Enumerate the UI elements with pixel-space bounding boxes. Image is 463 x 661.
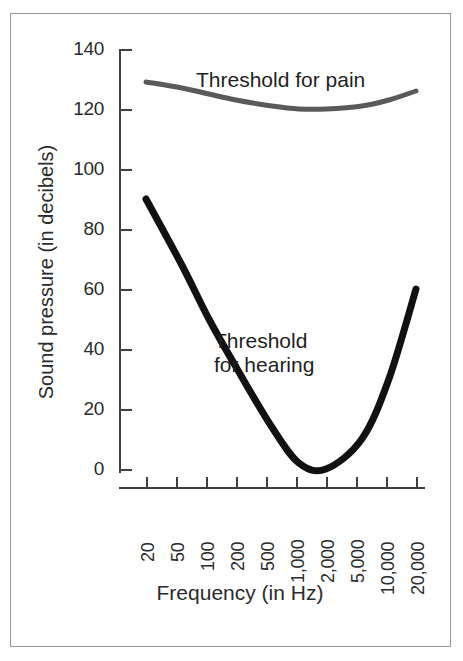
figure-container: 140 120 100 80 60 40 20 0 20 50 100 200 … <box>0 0 463 661</box>
y-tick-label-0: 0 <box>44 459 104 478</box>
x-tick-mark <box>266 477 268 487</box>
x-tick-mark <box>236 477 238 487</box>
y-tick-label-120: 120 <box>44 99 104 118</box>
x-tick-label-100: 100 <box>199 542 217 571</box>
y-tick-mark <box>121 289 132 291</box>
x-tick-mark <box>296 477 298 487</box>
x-tick-label-2000: 2,000 <box>319 539 337 583</box>
x-tick-label-500: 500 <box>259 542 277 571</box>
hearing-curve-annotation: Thresholdfor hearing <box>214 329 314 376</box>
x-axis-title: Frequency (in Hz) <box>60 582 420 603</box>
x-tick-label-200: 200 <box>229 542 247 571</box>
x-tick-label-1000: 1,000 <box>289 539 307 583</box>
y-tick-mark <box>121 229 132 231</box>
x-tick-label-50: 50 <box>169 543 187 562</box>
pain-curve-annotation: Threshold for pain <box>196 68 365 92</box>
hearing-annotation-line1: Threshold <box>214 329 307 352</box>
x-tick-mark <box>146 477 148 487</box>
x-tick-label-20: 20 <box>139 543 157 562</box>
x-tick-mark <box>416 477 418 487</box>
x-tick-mark <box>356 477 358 487</box>
y-tick-mark <box>121 109 132 111</box>
x-tick-mark <box>176 477 178 487</box>
y-tick-mark <box>121 349 132 351</box>
hearing-annotation-line2: for hearing <box>214 353 314 376</box>
x-tick-mark <box>326 477 328 487</box>
y-axis-title: Sound pressure (in decibels) <box>36 122 56 422</box>
y-tick-mark <box>121 49 132 51</box>
y-tick-mark <box>121 169 132 171</box>
x-tick-mark <box>386 477 388 487</box>
y-tick-mark <box>121 469 132 471</box>
y-tick-label-140: 140 <box>44 39 104 58</box>
x-axis-line <box>119 487 425 489</box>
y-tick-mark <box>121 409 132 411</box>
x-tick-mark <box>206 477 208 487</box>
x-tick-label-5000: 5,000 <box>349 539 367 583</box>
